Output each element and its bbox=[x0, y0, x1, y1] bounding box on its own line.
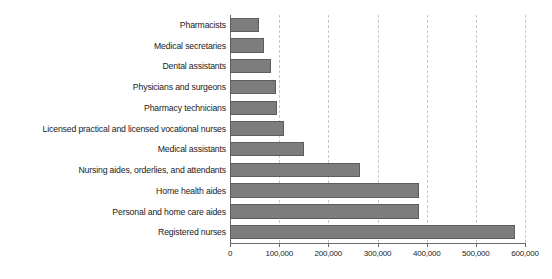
x-tick bbox=[328, 243, 329, 247]
x-tick bbox=[279, 243, 280, 247]
plot-area bbox=[230, 15, 525, 243]
bar bbox=[230, 38, 264, 52]
category-label: Pharmacists bbox=[180, 15, 226, 36]
category-label: Pharmacy technicians bbox=[144, 98, 226, 119]
x-tick bbox=[525, 243, 526, 247]
category-axis-labels: PharmacistsMedical secretariesDental ass… bbox=[0, 15, 226, 243]
category-label: Nursing aides, orderlies, and attendants bbox=[78, 160, 226, 181]
category-label: Personal and home care aides bbox=[112, 202, 226, 223]
bar bbox=[230, 101, 277, 115]
bar-row bbox=[230, 15, 525, 36]
bar-series bbox=[230, 15, 525, 243]
category-label: Registered nurses bbox=[158, 222, 226, 243]
bar-chart: PharmacistsMedical secretariesDental ass… bbox=[0, 0, 552, 279]
bar bbox=[230, 163, 360, 177]
bar bbox=[230, 18, 259, 32]
category-label: Dental assistants bbox=[162, 56, 226, 77]
x-tick-label: 300,000 bbox=[364, 249, 392, 258]
x-tick-label: 100,000 bbox=[265, 249, 293, 258]
x-tick bbox=[230, 243, 231, 247]
category-label: Medical assistants bbox=[158, 139, 226, 160]
x-tick bbox=[427, 243, 428, 247]
bar-row bbox=[230, 56, 525, 77]
x-tick-label: 400,000 bbox=[413, 249, 441, 258]
bar bbox=[230, 225, 515, 239]
x-tick-label: 500,000 bbox=[462, 249, 490, 258]
x-tick-label: 600,000 bbox=[511, 249, 539, 258]
bar-row bbox=[230, 77, 525, 98]
bar-row bbox=[230, 119, 525, 140]
gridline-600000 bbox=[525, 15, 526, 243]
category-label: Licensed practical and licensed vocation… bbox=[43, 119, 226, 140]
category-label: Medical secretaries bbox=[154, 36, 226, 57]
bar bbox=[230, 80, 276, 94]
x-tick bbox=[378, 243, 379, 247]
x-tick-label: 0 bbox=[228, 249, 232, 258]
category-label: Home health aides bbox=[156, 181, 226, 202]
category-label: Physicians and surgeons bbox=[133, 77, 226, 98]
bar-row bbox=[230, 202, 525, 223]
bar bbox=[230, 59, 271, 73]
bar bbox=[230, 183, 419, 197]
bar-row bbox=[230, 222, 525, 243]
x-tick-label: 200,000 bbox=[315, 249, 343, 258]
bar bbox=[230, 142, 304, 156]
bar-row bbox=[230, 36, 525, 57]
bar-row bbox=[230, 98, 525, 119]
x-tick bbox=[476, 243, 477, 247]
bar-row bbox=[230, 139, 525, 160]
bar-row bbox=[230, 160, 525, 181]
bar bbox=[230, 204, 419, 218]
bar-row bbox=[230, 181, 525, 202]
bar bbox=[230, 121, 284, 135]
